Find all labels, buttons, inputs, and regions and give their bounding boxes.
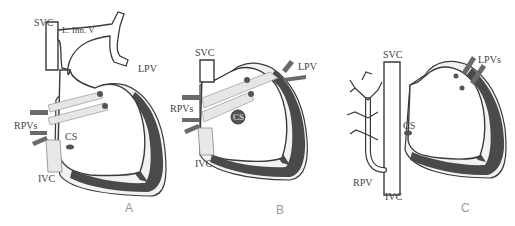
- label-a-svc: SVC: [34, 18, 53, 28]
- heart-a-rpv-lower: [32, 136, 48, 146]
- heart-c-cs: [404, 131, 412, 136]
- label-a-lpv: LPV: [138, 64, 157, 74]
- heart-a: [30, 12, 166, 196]
- heart-c: [347, 56, 506, 195]
- heart-a-rpv-upper: [30, 110, 48, 115]
- label-c-lpvs: LPVs: [478, 55, 501, 65]
- label-a-cs: CS: [65, 132, 77, 142]
- label-b-ivc: IVC: [195, 159, 212, 169]
- heart-c-rpv-tree: [368, 100, 384, 170]
- heart-c-svc-ivc: [384, 62, 400, 195]
- panel-label-a: A: [125, 202, 133, 214]
- heart-c-rpv-branches: [347, 72, 382, 140]
- heart-b-lpv-upper: [282, 60, 294, 73]
- label-c-svc: SVC: [383, 50, 402, 60]
- heart-a-vein-ostium-1: [97, 91, 103, 97]
- heart-c-vein-ostium-1: [454, 74, 459, 79]
- heart-a-left-innominate-vein: [58, 12, 128, 75]
- label-a-ivc: IVC: [38, 174, 55, 184]
- label-b-cs: CS: [233, 113, 244, 122]
- label-a-left-innominate-vein: L. Inn. V: [62, 26, 95, 35]
- heart-b-svc: [200, 60, 214, 82]
- heart-a-rpv-mid: [30, 131, 47, 135]
- heart-a-body: [58, 70, 145, 176]
- heart-c-vein-ostium-2: [460, 86, 465, 91]
- heart-b-rpv-mid: [182, 118, 200, 122]
- heart-b-lpv-lower: [284, 75, 306, 82]
- heart-a-ivc: [46, 140, 62, 172]
- heart-b-rpv-upper: [182, 95, 200, 100]
- heart-a-svc: [46, 22, 58, 70]
- heart-a-vein-ostium-2: [102, 103, 108, 109]
- label-c-cs: CS: [403, 121, 415, 131]
- panel-label-c: C: [461, 202, 470, 214]
- label-b-lpv: LPV: [298, 62, 317, 72]
- label-b-svc: SVC: [195, 48, 214, 58]
- panel-label-b: B: [276, 204, 284, 216]
- heart-b-ivc: [198, 128, 214, 155]
- heart-b-vein-ostium-1: [244, 77, 250, 83]
- label-c-rpv: RPV: [353, 178, 372, 188]
- label-b-rpvs: RPVs: [170, 104, 193, 114]
- heart-b-rpv-lower: [184, 124, 200, 134]
- heart-b-vein-ostium-2: [248, 91, 254, 97]
- label-c-ivc: IVC: [385, 192, 402, 202]
- heart-a-cs: [66, 145, 74, 150]
- label-a-rpvs: RPVs: [14, 121, 37, 131]
